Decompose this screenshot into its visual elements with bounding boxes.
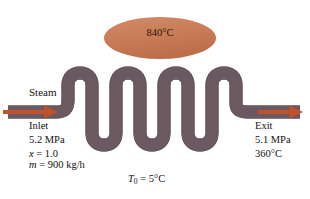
quality-equals: = 1.0 [34, 148, 58, 159]
steam-label: Steam [29, 86, 57, 99]
exit-pressure-value: 5.1 MPa [255, 134, 291, 146]
exit-state-block: Exit 5.1 MPa 360°C [255, 120, 291, 162]
surroundings-temperature-label: T0 = 5°C [128, 173, 165, 187]
mass-flow-equals: = 900 kg/h [37, 159, 85, 170]
surroundings-value: 5°C [149, 173, 165, 184]
exit-station-label: Exit [255, 120, 291, 132]
inlet-station-label: Inlet [29, 120, 65, 132]
surroundings-equals: = [138, 173, 149, 184]
inlet-state-block: Inlet 5.2 MPa x = 1.0 [29, 120, 65, 162]
heat-source-ellipse [104, 17, 216, 59]
exit-temperature-value: 360°C [255, 148, 291, 160]
thermodynamics-diagram: 840°C Steam Inlet 5.2 MPa x = 1.0 ˙m = 9… [0, 0, 310, 199]
inlet-pressure-value: 5.2 MPa [29, 134, 65, 146]
mass-flow-symbol: ˙m [29, 159, 37, 171]
mass-flow-rate-value: ˙m = 900 kg/h [29, 159, 85, 171]
heat-source-temperature-label: 840°C [104, 27, 216, 38]
